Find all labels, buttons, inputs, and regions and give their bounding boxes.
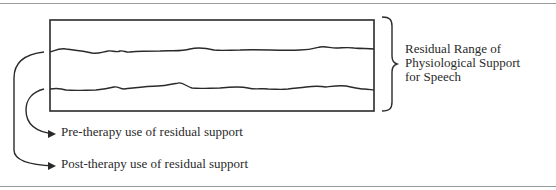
range-label-line-3: for Speech [405,70,520,84]
range-label-line-2: Physiological Support [405,56,520,70]
lower-wavy-line [50,83,374,91]
range-brace [382,17,397,111]
pre-therapy-arrowhead-icon [48,130,56,138]
upper-wavy-line [50,47,374,54]
pre-therapy-label: Pre-therapy use of residual support [61,125,243,139]
post-therapy-label: Post-therapy use of residual support [61,157,248,171]
post-therapy-arrowhead-icon [48,162,56,170]
residual-range-label: Residual Range of Physiological Support … [405,42,520,84]
post-therapy-arrow [14,52,54,166]
range-label-line-1: Residual Range of [405,42,520,56]
residual-range-box [50,20,374,111]
bottom-rule [0,186,556,187]
